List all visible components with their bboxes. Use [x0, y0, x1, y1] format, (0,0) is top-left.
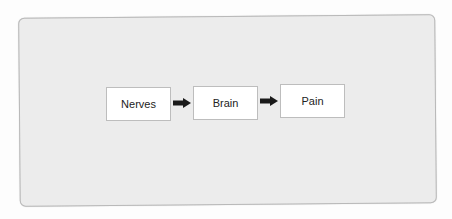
- node-nerves: Nerves: [106, 87, 171, 121]
- node-label: Pain: [301, 95, 323, 107]
- node-pain: Pain: [280, 84, 345, 118]
- node-brain: Brain: [193, 86, 258, 120]
- node-label: Brain: [213, 97, 239, 109]
- arrow-right-icon: [260, 96, 278, 106]
- arrow-right-icon: [173, 98, 191, 108]
- node-label: Nerves: [121, 98, 156, 110]
